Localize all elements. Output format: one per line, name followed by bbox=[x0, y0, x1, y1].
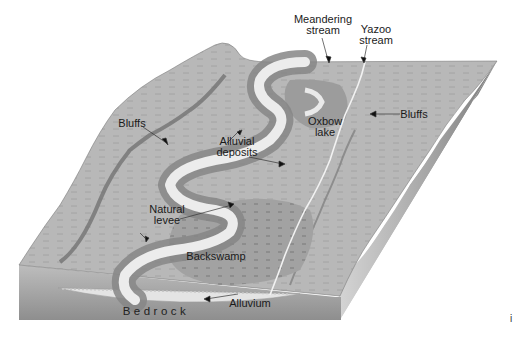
label-bluffs-right: Bluffs bbox=[396, 109, 432, 120]
label-oxbow-lake: Oxbow lake bbox=[303, 116, 347, 138]
corner-mark: i bbox=[510, 313, 512, 324]
label-natural-levee: Natural levee bbox=[145, 204, 189, 226]
label-bedrock: Bedrock bbox=[116, 306, 196, 317]
label-bluffs-left: Bluffs bbox=[114, 118, 150, 129]
label-backswamp: Backswamp bbox=[183, 251, 249, 262]
floodplain-block-diagram bbox=[0, 0, 515, 337]
label-alluvial-deposits: Alluvial deposits bbox=[209, 136, 265, 158]
label-yazoo-stream: Yazoo stream bbox=[354, 24, 398, 46]
label-meandering-stream: Meandering stream bbox=[290, 14, 356, 36]
label-alluvium: Alluvium bbox=[225, 298, 275, 309]
